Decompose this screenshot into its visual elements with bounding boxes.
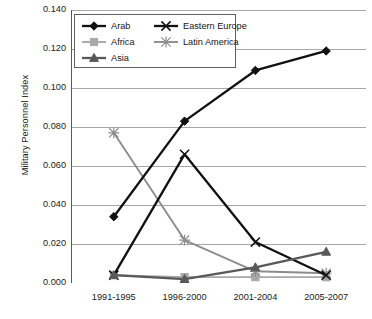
- series-latin-america: [108, 127, 331, 278]
- marker-x: [180, 150, 189, 159]
- legend-marker-x-icon: [153, 19, 179, 33]
- marker-square: [90, 38, 97, 45]
- y-tick-label: 0.000: [22, 278, 66, 287]
- marker-asterisk: [161, 37, 172, 48]
- x-tick-label: 1996-2000: [145, 292, 225, 302]
- y-tick-label: 0.040: [22, 200, 66, 209]
- x-tick-label: 2005-2007: [286, 292, 366, 302]
- y-tick-label: 0.140: [22, 5, 66, 14]
- legend-label: Arab: [111, 21, 130, 31]
- legend-label: Asia: [111, 53, 129, 63]
- series-arab: [110, 47, 331, 221]
- legend-label: Eastern Europe: [183, 21, 247, 31]
- marker-diamond: [322, 47, 330, 55]
- legend-item-arab[interactable]: Arab: [81, 18, 130, 34]
- y-tick-label: 0.020: [22, 239, 66, 248]
- legend-marker-square-icon: [81, 35, 107, 49]
- series-line: [114, 133, 326, 273]
- series-line: [114, 51, 326, 217]
- marker-diamond: [90, 22, 98, 30]
- legend-item-eastern-europe[interactable]: Eastern Europe: [153, 18, 247, 34]
- y-axis-tick-labels: 0.1400.1200.1000.0800.0600.0400.0200.000: [20, 0, 66, 319]
- marker-asterisk: [108, 127, 119, 138]
- marker-triangle: [322, 247, 331, 255]
- legend-item-latin-america[interactable]: Latin America: [153, 34, 239, 50]
- chart-figure: Military Personnel Index 0.1400.1200.100…: [0, 0, 372, 319]
- x-tick-label: 1991-1995: [74, 292, 154, 302]
- y-tick-label: 0.080: [22, 122, 66, 131]
- series-eastern-europe: [109, 150, 331, 280]
- legend-marker-asterisk-icon: [153, 35, 179, 49]
- legend-label: Africa: [111, 37, 135, 47]
- legend-item-africa[interactable]: Africa: [81, 34, 135, 50]
- legend-label: Latin America: [183, 37, 239, 47]
- marker-x: [251, 237, 260, 246]
- y-tick-label: 0.100: [22, 83, 66, 92]
- marker-asterisk: [179, 235, 190, 246]
- y-tick-label: 0.060: [22, 161, 66, 170]
- legend-item-asia[interactable]: Asia: [81, 50, 129, 66]
- chart-legend: ArabAfricaAsiaEastern EuropeLatin Americ…: [74, 14, 236, 68]
- x-tick-label: 2001-2004: [215, 292, 295, 302]
- y-tick-label: 0.120: [22, 44, 66, 53]
- legend-marker-triangle-icon: [81, 51, 107, 65]
- legend-marker-diamond-icon: [81, 19, 107, 33]
